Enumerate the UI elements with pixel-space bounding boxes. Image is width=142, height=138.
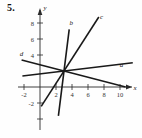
- coordinate-plane-graph: -2 2 4 6 8 10 8 6 4 -2 x y a b c d: [0, 0, 142, 138]
- x-tick-label-4: 4: [70, 91, 74, 98]
- x-tick-label-10: 10: [117, 91, 124, 98]
- line-label-c: c: [100, 13, 104, 21]
- x-tick-label--2: -2: [21, 91, 26, 98]
- y-tick-label-8: 8: [31, 20, 34, 27]
- line-label-a: a: [120, 61, 124, 69]
- y-tick-label-4: 4: [31, 52, 35, 59]
- y-axis-label: y: [42, 4, 47, 12]
- line-label-b: b: [69, 19, 73, 27]
- x-tick-label-2: 2: [54, 91, 57, 98]
- y-axis-arrow-icon: [38, 8, 43, 15]
- figure-container: 5. -2 2: [0, 0, 142, 138]
- y-tick-label-6: 6: [31, 36, 35, 43]
- line-label-d: d: [20, 50, 24, 58]
- plotted-lines-group: [22, 17, 133, 116]
- y-tick-label--2: -2: [29, 100, 34, 107]
- x-axis-label: x: [132, 84, 137, 92]
- x-tick-label-6: 6: [86, 91, 90, 98]
- x-axis-arrow-icon: [126, 85, 132, 90]
- x-tick-label-8: 8: [102, 91, 105, 98]
